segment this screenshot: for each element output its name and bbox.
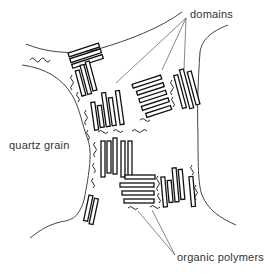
soil-structure-diagram: domains quartz grain organic polymers <box>0 0 272 274</box>
quartz-grain-outlines <box>22 12 236 238</box>
diagram-canvas <box>0 0 272 274</box>
domains-label: domains <box>190 8 233 20</box>
organic-polymers-label: organic polymers <box>177 251 264 263</box>
organic-polymers <box>30 58 198 210</box>
leader-lines <box>116 18 186 255</box>
quartz-grain-label: quartz grain <box>9 139 70 151</box>
clay-domains <box>68 43 201 224</box>
